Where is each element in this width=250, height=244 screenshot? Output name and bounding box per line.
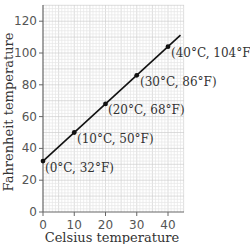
y-tick-label: 0 [29,205,37,219]
point-label: (30°C, 86°F) [140,75,217,89]
point-label: (40°C, 104°F) [171,46,250,60]
y-axis-title: Fahrenheit temperature [1,32,16,191]
y-tick-label: 120 [14,14,37,28]
y-ticks: 0 20 40 60 80 100 120 [14,14,43,219]
point-label: (10°C, 50°F) [77,132,154,146]
point-label: (20°C, 68°F) [108,103,185,117]
y-tick-label: 20 [22,173,37,187]
x-axis-title: Celsius temperature [45,230,180,244]
data-point [166,44,171,49]
y-tick-label: 100 [14,46,37,60]
data-point [72,130,77,135]
point-label: (0°C, 32°F) [45,161,114,175]
y-tick-label: 60 [22,110,37,124]
data-point [134,73,139,78]
y-tick-label: 40 [22,141,37,155]
x-ticks: 0 10 20 30 40 [39,212,175,232]
temperature-chart: 0 20 40 60 80 100 120 0 10 20 30 40 Cels… [0,0,250,244]
y-tick-label: 80 [22,78,37,92]
